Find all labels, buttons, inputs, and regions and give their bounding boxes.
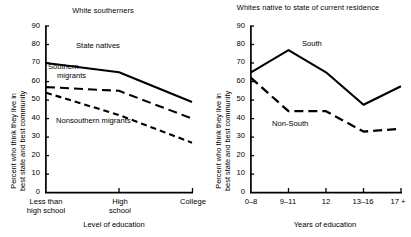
plot-svg-right — [250, 26, 405, 196]
panel-title-right: Whites native to state of current reside… — [205, 3, 411, 12]
x-tick-left-2-line1: High — [112, 197, 128, 206]
y-tick-left-10: 10 — [26, 169, 40, 177]
y-tick-left-0: 0 — [26, 188, 40, 196]
x-tick-right-12: 12 — [306, 197, 346, 206]
series-label-southern-migrants: Southern migrants — [48, 62, 86, 81]
y-tick-right-70: 70 — [231, 58, 245, 66]
y-tick-right-0: 0 — [231, 188, 245, 196]
x-tick-left-2-line2: school — [90, 206, 150, 215]
y-tick-left-90: 90 — [26, 22, 40, 30]
y-tick-left-50: 50 — [26, 95, 40, 103]
x-tick-left-high-school: High school — [90, 197, 150, 215]
x-tick-right-17-plus: 17 + — [381, 197, 411, 206]
y-tick-right-30: 30 — [231, 132, 245, 140]
y-tick-left-40: 40 — [26, 114, 40, 122]
x-tick-right-13-16: 13–16 — [343, 197, 383, 206]
y-tick-right-10: 10 — [231, 169, 245, 177]
x-tick-left-1-line1: Less than — [30, 197, 63, 206]
x-tick-right-0-8: 0–8 — [231, 197, 271, 206]
y-tick-right-60: 60 — [231, 77, 245, 85]
plot-svg-left — [45, 26, 195, 196]
plot-area-right — [250, 26, 405, 196]
x-tick-left-3-line1: College — [180, 197, 206, 206]
chart-panel-whites-native: Whites native to state of current reside… — [205, 0, 411, 237]
x-axis-title-right: Years of education — [245, 220, 405, 229]
figure-two-panel-line-charts: White southerners Percent who think they… — [0, 0, 411, 237]
y-tick-left-70: 70 — [26, 58, 40, 66]
panel-title-left: White southerners — [0, 6, 206, 15]
series-label-non-south: Non-South — [272, 119, 308, 128]
y-tick-right-20: 20 — [231, 151, 245, 159]
y-tick-left-20: 20 — [26, 151, 40, 159]
y-tick-right-40: 40 — [231, 114, 245, 122]
y-tick-left-30: 30 — [26, 132, 40, 140]
series-label-state-natives: State natives — [76, 41, 120, 50]
y-axis-title-left: Percent who think they live in best stat… — [9, 91, 27, 191]
y-axis-title-right-line1: Percent who think they live in — [214, 91, 223, 191]
series-line-southern-migrants — [46, 87, 192, 119]
series-label-south: South — [302, 39, 322, 48]
y-tick-right-50: 50 — [231, 95, 245, 103]
y-axis-title-right: Percent who think they live in best stat… — [214, 91, 232, 191]
x-axis-title-left: Level of education — [34, 220, 194, 229]
x-tick-left-1-line2: high school — [16, 206, 76, 215]
y-axis-title-left-line1: Percent who think they live in — [9, 91, 18, 191]
series-label-southern-migrants-line1: Southern — [48, 62, 79, 71]
series-label-southern-migrants-line2: migrants — [48, 71, 86, 80]
x-tick-left-less-than-high-school: Less than high school — [16, 197, 76, 215]
chart-panel-white-southerners: White southerners Percent who think they… — [0, 0, 206, 237]
y-tick-left-60: 60 — [26, 77, 40, 85]
y-tick-right-90: 90 — [231, 22, 245, 30]
x-tick-right-9-11: 9–11 — [268, 197, 308, 206]
series-label-nonsouthern-migrants: Nonsouthern migrants — [56, 116, 131, 125]
plot-area-left — [45, 26, 195, 196]
y-tick-right-80: 80 — [231, 40, 245, 48]
y-tick-left-80: 80 — [26, 40, 40, 48]
